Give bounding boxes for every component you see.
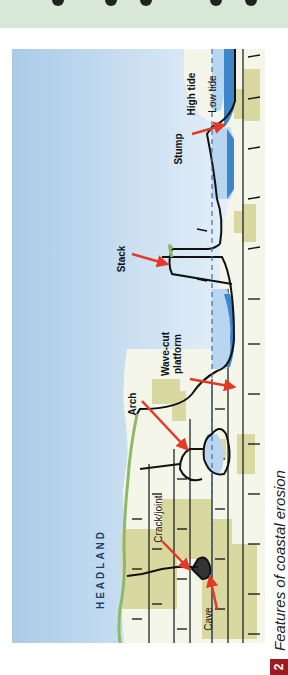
band-dot xyxy=(210,0,222,6)
label-high-tide: High tide xyxy=(186,72,197,115)
label-headland: HEADLAND xyxy=(95,529,106,609)
top-decorative-band xyxy=(0,0,288,28)
label-stack: Stack xyxy=(116,245,127,272)
coastal-erosion-diagram: High tide Low tide Stump Stack Wave-cut … xyxy=(12,49,265,643)
label-stump: Stump xyxy=(173,133,184,164)
figure-caption: 2 Features of coastal erosion xyxy=(270,380,288,675)
label-crack-joint: Crack/joint xyxy=(153,495,164,542)
label-low-tide: Low tide xyxy=(207,75,218,113)
band-dot xyxy=(52,0,64,6)
label-wave-cut-line2: platform xyxy=(172,334,183,374)
band-dot xyxy=(140,0,152,6)
label-arch: Arch xyxy=(127,393,138,416)
label-cave: Cave xyxy=(203,607,214,631)
figure-caption-text: Features of coastal erosion xyxy=(271,470,288,651)
label-wave-cut-line1: Wave-cut xyxy=(160,331,171,376)
band-dot xyxy=(245,0,257,6)
band-dot xyxy=(105,0,117,6)
figure-number-badge: 2 xyxy=(270,659,288,675)
